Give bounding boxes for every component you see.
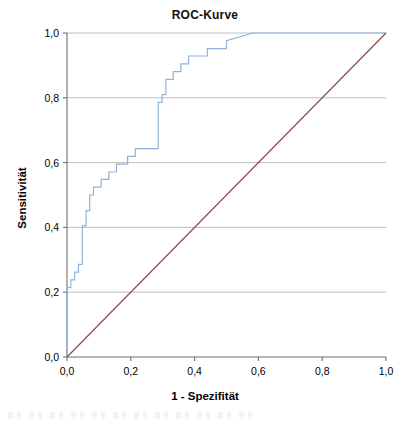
y-tick-label: 0,8 — [27, 92, 59, 104]
reference-line-path — [67, 33, 386, 357]
y-tick-label: 1,0 — [27, 27, 59, 39]
y-tick-label: 0,6 — [27, 157, 59, 169]
x-tick-label: 0,6 — [251, 365, 266, 377]
x-axis-title: 1 - Spezifität — [0, 390, 410, 402]
series-layer — [67, 33, 386, 357]
gridlines — [67, 33, 386, 292]
scan-artifact — [8, 412, 258, 419]
x-tick-label: 0,2 — [123, 365, 138, 377]
y-tick-label: 0,4 — [27, 221, 59, 233]
y-tick-label: 0,2 — [27, 286, 59, 298]
plot-area — [0, 0, 410, 423]
roc-chart: ROC-Kurve 0,00,20,40,60,81,0 0,00,20,40,… — [0, 0, 410, 423]
y-tick-label: 0,0 — [27, 351, 59, 363]
x-tick-label: 0,4 — [187, 365, 202, 377]
y-axis-title: Sensitivität — [16, 128, 28, 268]
x-tick-label: 0,8 — [315, 365, 330, 377]
x-tick-label: 0,0 — [60, 365, 75, 377]
x-tick-label: 1,0 — [379, 365, 394, 377]
